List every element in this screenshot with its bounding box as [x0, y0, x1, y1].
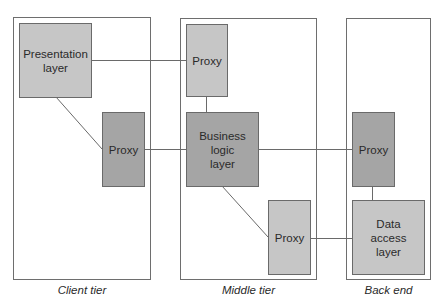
middle-tier-label: Middle tier: [180, 284, 317, 296]
business-logic-layer-box: Business logic layer: [186, 112, 259, 187]
middle-bottom-proxy-box: Proxy: [268, 200, 311, 275]
backend-proxy-box: Proxy: [352, 112, 395, 187]
presentation-layer-box: Presentation layer: [19, 23, 92, 98]
client-tier-label: Client tier: [13, 284, 151, 296]
data-access-layer-box: Data access layer: [352, 200, 425, 275]
client-proxy-box: Proxy: [102, 112, 145, 187]
middle-top-proxy-box: Proxy: [186, 24, 228, 97]
backend-tier-label: Back end: [346, 284, 431, 296]
